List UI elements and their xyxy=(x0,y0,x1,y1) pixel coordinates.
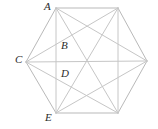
geometry-figure: A B C D E xyxy=(0,0,158,129)
hexagon-edge-C-A xyxy=(26,8,56,62)
vertex-label-e: E xyxy=(45,112,52,123)
hexagon-diagonal-A-R xyxy=(56,8,147,61)
hexagon-diagonal-TR-C xyxy=(26,8,118,62)
vertex-label-b: B xyxy=(61,40,68,51)
hexagon-diagonal-R-E xyxy=(56,61,147,113)
vertex-label-a: A xyxy=(44,1,51,12)
hexagon-diagonal-R-C xyxy=(26,61,147,62)
vertex-label-d: D xyxy=(61,68,69,79)
vertex-label-c: C xyxy=(15,54,22,65)
hexagon-edge-E-C xyxy=(26,62,56,113)
hexagon-diagonal-BR-C xyxy=(26,62,118,113)
hexagon-diagonals xyxy=(26,8,147,113)
hexagon-diagram-svg xyxy=(0,0,158,129)
